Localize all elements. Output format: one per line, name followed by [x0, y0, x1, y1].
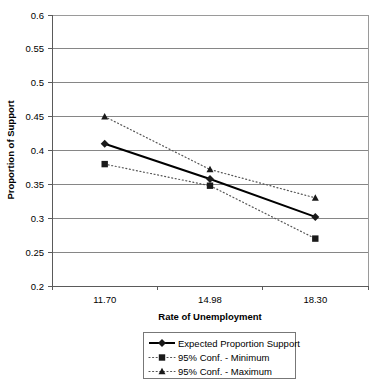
unemployment-support-line-chart: 0.6 0.55 0.5 0.45 0.4 0.35 0.3 0.25 0.2 …: [0, 0, 379, 385]
legend-item-95-conf-maximum[interactable]: 95% Conf. - Maximum: [149, 366, 272, 377]
y-tick-label-0.55: 0.55: [26, 43, 45, 54]
legend-item-95-conf-minimum[interactable]: 95% Conf. - Minimum: [149, 352, 269, 363]
x-tick-label-1498: 14.98: [198, 294, 222, 305]
y-tick-label-0.25: 0.25: [26, 247, 45, 258]
y-tick-marks: [48, 15, 52, 286]
x-tick-marks: [52, 286, 368, 290]
chart-legend: Expected Proportion Support 95% Conf. - …: [143, 332, 300, 378]
legend-item-expected-proportion-support[interactable]: Expected Proportion Support: [149, 338, 300, 349]
x-tick-label-1830: 18.30: [303, 294, 327, 305]
chart-container: 0.6 0.55 0.5 0.45 0.4 0.35 0.3 0.25 0.2 …: [0, 0, 379, 385]
y-tick-label-0.4: 0.4: [31, 145, 44, 156]
marker-square-3: [312, 235, 318, 241]
y-tick-label-0.6: 0.6: [31, 10, 44, 21]
legend-marker-diamond-icon: [158, 339, 166, 347]
y-axis-title: Proportion of Support: [5, 100, 16, 200]
y-tick-label-0.45: 0.45: [26, 111, 45, 122]
marker-square-2: [207, 183, 213, 189]
y-tick-label-0.5: 0.5: [31, 77, 44, 88]
y-tick-label-0.35: 0.35: [26, 179, 45, 190]
y-tick-label-0.2: 0.2: [31, 281, 44, 292]
legend-label-maximum: 95% Conf. - Maximum: [178, 366, 272, 377]
x-tick-labels: 11.70 14.98 18.30: [93, 294, 327, 305]
y-tick-label-0.3: 0.3: [31, 213, 44, 224]
y-tick-labels: 0.6 0.55 0.5 0.45 0.4 0.35 0.3 0.25 0.2: [26, 10, 45, 292]
marker-square-1: [102, 161, 108, 167]
legend-label-minimum: 95% Conf. - Minimum: [178, 352, 269, 363]
x-axis-title: Rate of Unemployment: [158, 311, 262, 322]
legend-label-expected: Expected Proportion Support: [178, 338, 300, 349]
x-tick-label-1170: 11.70: [93, 294, 116, 305]
legend-marker-square-icon: [159, 354, 165, 360]
